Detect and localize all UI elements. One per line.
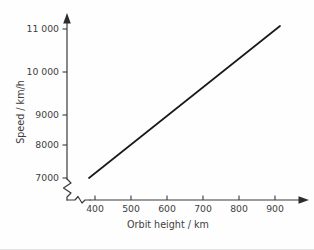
x-tick-label-900: 900 — [266, 203, 284, 214]
x-tick-label-800: 800 — [230, 203, 248, 214]
chart-figure: 11 000 10 000 9000 8000 7000 400 500 600… — [0, 0, 314, 250]
x-tick-label-700: 700 — [194, 203, 212, 214]
y-tick-label-9000: 9000 — [35, 109, 59, 120]
y-tick-label-8000: 8000 — [35, 139, 59, 150]
chart-plot-area: 11 000 10 000 9000 8000 7000 400 500 600… — [0, 0, 314, 250]
x-axis-ticks — [95, 196, 275, 201]
y-axis-break-icon — [64, 179, 72, 200]
x-axis-tick-labels: 400 500 600 700 800 900 — [86, 203, 284, 214]
y-axis-title: Speed / km/h — [15, 80, 26, 144]
y-axis-ticks — [63, 29, 68, 178]
x-axis-arrow-icon — [299, 196, 310, 204]
data-series-line — [89, 26, 280, 178]
y-tick-label-11000: 11 000 — [26, 23, 59, 34]
x-axis-title: Orbit height / km — [127, 219, 209, 230]
y-axis-tick-labels: 11 000 10 000 9000 8000 7000 — [26, 23, 59, 183]
y-tick-label-7000: 7000 — [35, 172, 59, 183]
x-tick-label-500: 500 — [122, 203, 140, 214]
y-tick-label-10000: 10 000 — [26, 66, 59, 77]
x-tick-label-400: 400 — [86, 203, 104, 214]
y-axis-arrow-icon — [63, 13, 71, 24]
x-tick-label-600: 600 — [158, 203, 176, 214]
